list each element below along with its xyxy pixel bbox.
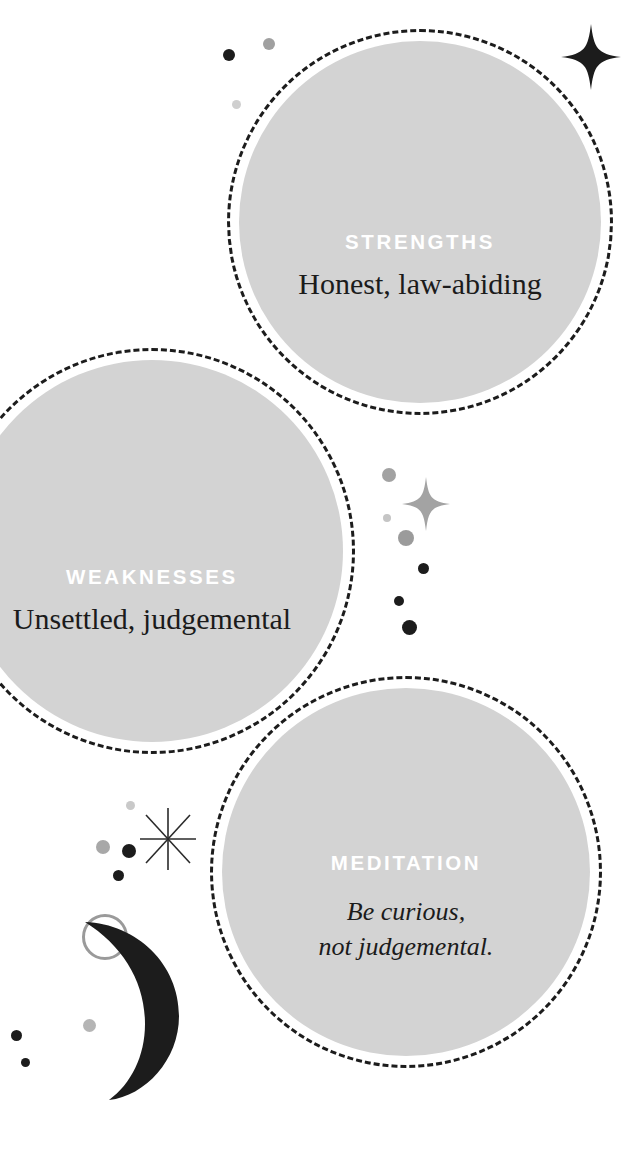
crescent-moon-icon [45,920,200,1100]
dot-icon [122,844,136,858]
dot-icon [21,1058,30,1067]
four-point-star-icon [402,477,450,531]
bubble-body-meditation: Be curious, not judgemental. [319,894,494,964]
dot-icon [382,468,396,482]
dot-icon [223,49,235,61]
poster-canvas: STRENGTHS Honest, law-abiding WEAKNESSES… [0,0,639,1159]
bubble-content: MEDITATION Be curious, not judgemental. [222,688,590,1092]
bubble-body-line-2: not judgemental. [319,929,494,964]
dot-icon [394,596,404,606]
bubble-body-line-1: Be curious, [319,894,494,929]
bubble-kicker-meditation: MEDITATION [331,852,482,875]
four-point-star-icon [561,24,621,90]
dot-icon [418,563,429,574]
dot-icon [383,514,391,522]
bubble-kicker-strengths: STRENGTHS [345,231,495,254]
dot-icon [83,1019,96,1032]
eight-point-starburst-icon [140,808,196,870]
dot-icon [96,840,110,854]
bubble-kicker-weaknesses: WEAKNESSES [66,566,238,589]
bubble-body-strengths: Honest, law-abiding [298,267,541,301]
dot-icon [402,620,417,635]
bubble-body-weaknesses: Unsettled, judgemental [13,602,291,636]
bubble-weaknesses[interactable]: WEAKNESSES Unsettled, judgemental [0,360,343,742]
bubble-meditation[interactable]: MEDITATION Be curious, not judgemental. [222,688,590,1056]
dot-icon [126,801,135,810]
bubble-strengths[interactable]: STRENGTHS Honest, law-abiding [239,41,601,403]
dot-icon [11,1030,22,1041]
dot-icon [113,870,124,881]
dot-icon [398,530,414,546]
